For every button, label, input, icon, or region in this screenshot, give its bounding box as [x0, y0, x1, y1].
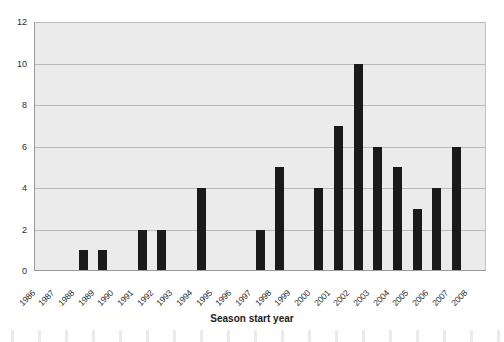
x-tick-label-2005: 2005	[390, 288, 410, 308]
x-tick-label-2000: 2000	[292, 288, 312, 308]
x-tick-label-1999: 1999	[272, 288, 292, 308]
x-tick-label-1994: 1994	[174, 288, 194, 308]
bar-2005	[413, 209, 422, 271]
y-tick-label-6: 6	[22, 142, 27, 151]
x-tick-label-1988: 1988	[56, 288, 76, 308]
x-tick-label-1987: 1987	[37, 288, 57, 308]
x-tick-label-1986: 1986	[17, 288, 37, 308]
bar-2001	[334, 126, 343, 271]
y-tick-label-10: 10	[17, 59, 27, 68]
bar-2003	[373, 147, 382, 272]
x-tick-label-2006: 2006	[410, 288, 430, 308]
y-tick-label-12: 12	[17, 18, 27, 27]
bar-1988	[79, 250, 88, 271]
x-tick-label-2007: 2007	[430, 288, 450, 308]
x-tick-label-2001: 2001	[312, 288, 332, 308]
x-tick-label-1993: 1993	[155, 288, 175, 308]
y-tick-label-4: 4	[22, 184, 27, 193]
x-tick-label-1989: 1989	[76, 288, 96, 308]
bar-1991	[138, 230, 147, 272]
bar-2000	[314, 188, 323, 271]
bar-chart-figure: 024681012 198619871988198919901991199219…	[0, 0, 504, 342]
x-tick-label-1997: 1997	[233, 288, 253, 308]
x-tick-label-1998: 1998	[253, 288, 273, 308]
bar-1998	[275, 167, 284, 271]
plot-right-border	[485, 22, 486, 271]
y-axis-line	[34, 22, 35, 271]
y-tick-label-0: 0	[22, 267, 27, 276]
x-tick-label-2004: 2004	[371, 288, 391, 308]
scan-artifact-strip	[0, 330, 504, 342]
bar-2004	[393, 167, 402, 271]
x-axis-title: Season start year	[0, 313, 504, 324]
x-tick-label-1996: 1996	[213, 288, 233, 308]
bar-2002	[354, 64, 363, 272]
x-tick-label-1991: 1991	[115, 288, 135, 308]
x-tick-label-2002: 2002	[331, 288, 351, 308]
bar-2006	[432, 188, 441, 271]
x-tick-label-1992: 1992	[135, 288, 155, 308]
bar-2007	[452, 147, 461, 272]
bars-group	[34, 22, 486, 271]
x-tick-label-1995: 1995	[194, 288, 214, 308]
y-axis: 024681012	[0, 0, 34, 271]
y-tick-label-8: 8	[22, 101, 27, 110]
x-axis: 1986198719881989199019911992199319941995…	[34, 271, 486, 311]
bar-1994	[197, 188, 206, 271]
plot-area	[34, 22, 486, 271]
y-tick-label-2: 2	[22, 225, 27, 234]
bar-1989	[98, 250, 107, 271]
x-tick-label-2008: 2008	[449, 288, 469, 308]
x-tick-label-2003: 2003	[351, 288, 371, 308]
bar-1997	[256, 230, 265, 272]
bar-1992	[157, 230, 166, 272]
x-tick-label-1990: 1990	[96, 288, 116, 308]
